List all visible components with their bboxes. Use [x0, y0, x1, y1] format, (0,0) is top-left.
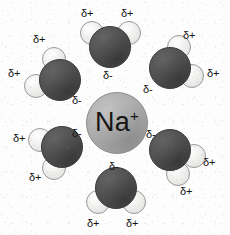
partial-positive-charge-label: δ+	[29, 172, 42, 183]
partial-negative-charge-label: δ-	[146, 129, 156, 140]
sodium-ion-label: Na+	[95, 109, 139, 136]
partial-positive-charge-label: δ+	[126, 218, 139, 229]
partial-negative-charge-label: δ-	[72, 95, 82, 106]
oxygen-atom	[149, 47, 191, 89]
partial-positive-charge-label: δ+	[8, 68, 21, 79]
partial-negative-charge-label: δ-	[103, 70, 113, 81]
sodium-ion: Na+	[86, 92, 148, 154]
partial-positive-charge-label: δ+	[207, 68, 220, 79]
partial-positive-charge-label: δ+	[203, 157, 216, 168]
partial-positive-charge-label: δ+	[183, 30, 196, 41]
partial-positive-charge-label: δ+	[33, 34, 46, 45]
oxygen-atom	[95, 167, 137, 209]
partial-positive-charge-label: δ+	[180, 186, 193, 197]
partial-positive-charge-label: δ+	[121, 8, 134, 19]
partial-negative-charge-label: δ-	[109, 161, 119, 172]
hydrated-sodium-ion-diagram: δ+δ+δ-δ+δ+δ-δ+δ+δ-δ+δ+δ-δ-δ+δ+δ-δ+δ+ Na+	[0, 0, 230, 235]
partial-positive-charge-label: δ+	[87, 218, 100, 229]
partial-positive-charge-label: δ+	[13, 133, 26, 144]
oxygen-atom	[89, 26, 131, 68]
partial-positive-charge-label: δ+	[81, 8, 94, 19]
partial-negative-charge-label: δ-	[72, 128, 82, 139]
partial-negative-charge-label: δ-	[143, 84, 153, 95]
